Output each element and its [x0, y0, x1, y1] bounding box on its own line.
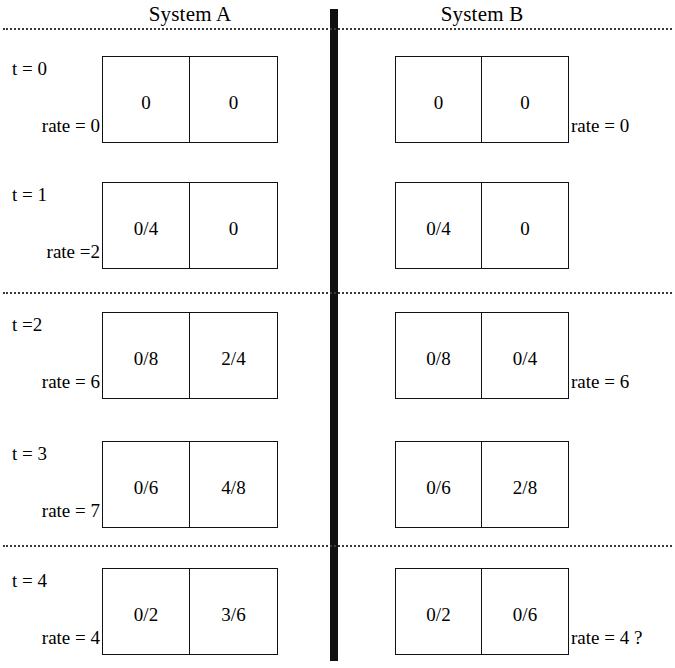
state-cell-right: 0/4	[482, 313, 568, 398]
state-box-system-a: 0/6 4/8	[102, 441, 278, 528]
timestep-row: t = 1 rate =2 0/4 0 0/4 0	[0, 182, 675, 270]
dotted-rule-middle	[3, 292, 672, 294]
rate-label-system-a: rate = 7	[0, 500, 100, 522]
state-cell-left: 0/8	[396, 313, 482, 398]
state-cell-right: 0	[190, 57, 277, 142]
state-box-system-a: 0/8 2/4	[102, 312, 278, 399]
rate-label-system-a: rate = 4	[0, 627, 100, 649]
state-cell-left: 0/4	[103, 183, 190, 268]
state-cell-left: 0	[103, 57, 190, 142]
rate-label-system-a: rate = 0	[0, 115, 100, 137]
time-label: t = 3	[12, 443, 47, 465]
state-box-system-b: 0/6 2/8	[395, 441, 569, 528]
state-box-system-a: 0/2 3/6	[102, 568, 278, 655]
rate-label-system-a: rate =2	[0, 241, 100, 263]
state-box-system-b: 0/8 0/4	[395, 312, 569, 399]
column-title-system-a: System A	[100, 1, 280, 27]
state-cell-right: 3/6	[190, 569, 277, 654]
state-cell-left: 0/4	[396, 183, 482, 268]
state-cell-right: 0	[482, 183, 568, 268]
rate-label-system-b: rate = 6	[571, 371, 629, 393]
rate-label-system-b: rate = 0	[571, 115, 629, 137]
state-box-system-b: 0 0	[395, 56, 569, 143]
state-cell-right: 2/8	[482, 442, 568, 527]
state-cell-right: 4/8	[190, 442, 277, 527]
state-cell-left: 0	[396, 57, 482, 142]
state-box-system-b: 0/2 0/6	[395, 568, 569, 655]
state-cell-left: 0/8	[103, 313, 190, 398]
state-box-system-a: 0/4 0	[102, 182, 278, 269]
state-cell-left: 0/2	[103, 569, 190, 654]
column-title-system-b: System B	[392, 1, 572, 27]
state-cell-left: 0/6	[103, 442, 190, 527]
time-label: t = 0	[12, 58, 47, 80]
timestep-row: t =2 rate = 6 0/8 2/4 0/8 0/4 rate = 6	[0, 312, 675, 400]
state-cell-right: 0	[190, 183, 277, 268]
dotted-rule-lower	[3, 545, 672, 547]
state-cell-right: 0/6	[482, 569, 568, 654]
state-cell-left: 0/6	[396, 442, 482, 527]
state-box-system-b: 0/4 0	[395, 182, 569, 269]
state-box-system-a: 0 0	[102, 56, 278, 143]
comparison-figure: System A System B t = 0 rate = 0 0 0 0 0…	[0, 0, 675, 668]
timestep-row: t = 0 rate = 0 0 0 0 0 rate = 0	[0, 56, 675, 144]
time-label: t =2	[12, 314, 42, 336]
state-cell-right: 2/4	[190, 313, 277, 398]
timestep-row: t = 4 rate = 4 0/2 3/6 0/2 0/6 rate = 4 …	[0, 568, 675, 656]
timestep-row: t = 3 rate = 7 0/6 4/8 0/6 2/8	[0, 441, 675, 529]
dotted-rule-top	[3, 28, 672, 30]
rate-label-system-b: rate = 4 ?	[571, 627, 642, 649]
state-cell-right: 0	[482, 57, 568, 142]
state-cell-left: 0/2	[396, 569, 482, 654]
time-label: t = 1	[12, 184, 47, 206]
time-label: t = 4	[12, 570, 47, 592]
rate-label-system-a: rate = 6	[0, 371, 100, 393]
